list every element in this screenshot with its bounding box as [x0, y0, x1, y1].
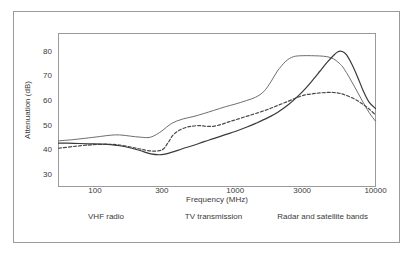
x-tick-label: 10000: [364, 186, 387, 195]
figure-container: 304050607080 1003001000300010000 VHF rad…: [0, 0, 414, 255]
attenuation-vs-frequency-chart: 304050607080 1003001000300010000 VHF rad…: [0, 0, 414, 255]
band-label: VHF radio: [88, 212, 125, 221]
band-label: Radar and satellite bands: [277, 212, 368, 221]
x-tick-label: 3000: [293, 186, 311, 195]
y-tick-label: 30: [43, 170, 52, 179]
x-tick-label: 100: [88, 186, 102, 195]
x-axis-title: Frequency (MHz): [186, 195, 248, 204]
x-axis-tick-labels: 1003001000300010000: [88, 186, 387, 195]
y-axis-tick-labels: 304050607080: [43, 47, 52, 179]
y-tick-label: 40: [43, 145, 52, 154]
y-tick-label: 50: [43, 121, 52, 130]
y-tick-label: 60: [43, 96, 52, 105]
x-tick-label: 300: [155, 186, 169, 195]
y-tick-label: 80: [43, 47, 52, 56]
x-tick-label: 1000: [226, 186, 244, 195]
frequency-band-labels: VHF radioTV transmissionRadar and satell…: [88, 212, 368, 221]
y-axis-title: Attenuation (dB): [23, 81, 32, 139]
y-tick-label: 70: [43, 71, 52, 80]
band-label: TV transmission: [185, 212, 242, 221]
